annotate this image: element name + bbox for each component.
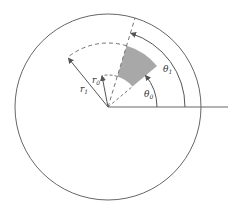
label-r1: r1 [80, 84, 88, 95]
label-theta0: θ0 [144, 89, 153, 100]
shaded-sector [117, 46, 157, 87]
theta0-ray [108, 86, 133, 107]
r1-arc [68, 43, 127, 57]
label-r0: r0 [92, 75, 100, 86]
r0-arc [102, 75, 118, 76]
polar-sector-diagram: r1 r0 θ1 θ0 [0, 0, 238, 212]
label-theta1: θ1 [163, 64, 172, 75]
r1-arrow [69, 58, 109, 107]
r0-arrow [102, 76, 108, 107]
